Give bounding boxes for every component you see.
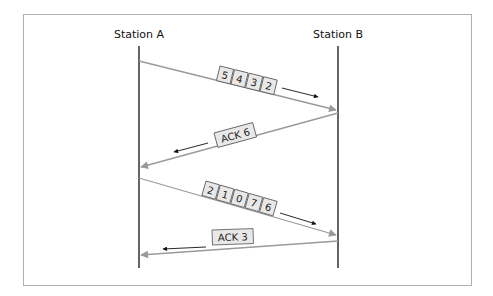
diagram-frame xyxy=(24,15,472,286)
ack-label: ACK 3 xyxy=(218,231,248,243)
sequence-diagram: Station A Station B 5 4 3 2 ACK 6 xyxy=(0,0,493,296)
station-a-label: Station A xyxy=(114,28,165,41)
station-b-label: Station B xyxy=(313,28,363,41)
